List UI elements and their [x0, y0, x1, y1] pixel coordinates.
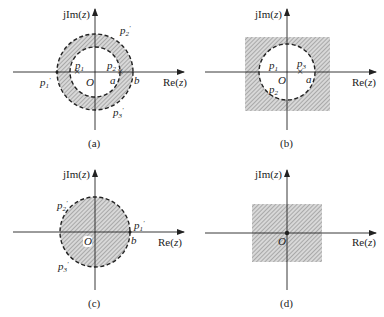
- origin-label: O: [86, 76, 94, 88]
- label-p1-prime: p1′: [133, 219, 145, 233]
- exterior-region: [245, 37, 330, 111]
- pole-dot: [56, 71, 59, 74]
- z-plane-figure: × × jIm(z) Re(z) O p1 p2 a b p1′ p2′ p3′…: [0, 0, 384, 317]
- origin-label: O: [84, 235, 92, 247]
- pole-marker: ×: [117, 65, 123, 77]
- caption-a: (a): [88, 137, 101, 150]
- imag-axis-label: jIm(z): [62, 8, 90, 21]
- imag-axis-label: jIm(z): [62, 168, 90, 181]
- label-a: a: [110, 74, 116, 86]
- caption-c: (c): [88, 297, 101, 310]
- label-p3-prime: p3′: [57, 260, 69, 274]
- label-p1-prime: p1′: [39, 76, 51, 90]
- label-p2-prime: p2′: [119, 24, 131, 38]
- caption-b: (b): [280, 137, 293, 150]
- real-axis-label: Re(z): [163, 76, 187, 89]
- label-b: b: [131, 234, 137, 246]
- origin-label: O: [278, 74, 286, 86]
- label-a: a: [306, 73, 312, 85]
- origin-label: O: [278, 235, 286, 247]
- imag-axis-label: jIm(z): [254, 8, 282, 21]
- real-axis-label: Re(z): [352, 236, 376, 249]
- panel-b: × jIm(z) Re(z) O p1 p3 p2 a (b): [205, 8, 376, 150]
- panel-d: jIm(z) Re(z) O (d): [205, 168, 376, 310]
- imag-axis-label: jIm(z): [254, 168, 282, 181]
- label-b: b: [134, 74, 140, 86]
- panel-a: × × jIm(z) Re(z) O p1 p2 a b p1′ p2′ p3′…: [13, 8, 187, 150]
- panel-c: jIm(z) Re(z) O p1′ p2′ p3′ b (c): [13, 168, 184, 310]
- real-axis-label: Re(z): [352, 76, 376, 89]
- real-axis-label: Re(z): [158, 236, 182, 249]
- label-p2-prime: p2′: [56, 199, 68, 213]
- caption-d: (d): [280, 297, 293, 310]
- label-p3-prime: p3′: [112, 106, 124, 120]
